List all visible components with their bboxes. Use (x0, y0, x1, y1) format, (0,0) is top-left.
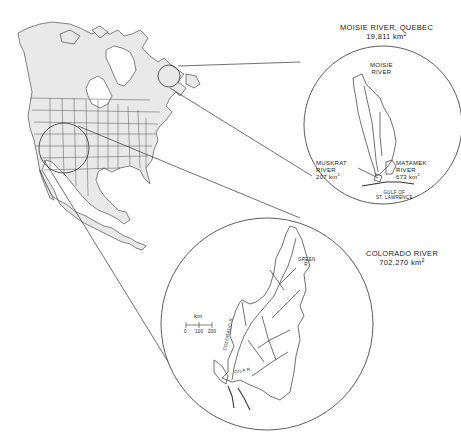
colorado-title-block: COLORADO RIVER 702,270 km2 (366, 250, 438, 267)
colorado-area: 702,270 km2 (366, 259, 438, 268)
green-river-label: GREEN R. (298, 257, 316, 267)
scale-tick-200: 200 (208, 329, 216, 334)
muskrat-river-label: MUSKRAT RIVER 207 km2 (316, 160, 347, 181)
moisie-title-block: MOISIE RIVER, QUEBEC 19,811 km2 (340, 24, 433, 41)
scale-unit: km (194, 313, 203, 320)
matamek-river-label: MATAMEK RIVER 673 km2 (396, 160, 427, 181)
north-america-map (18, 22, 200, 250)
scale-tick-0: 0 (184, 329, 187, 334)
colorado-inset-circle (161, 218, 373, 430)
moisie-river-label: MOISIE RIVER (370, 62, 393, 76)
gulf-label: GULF OF ST. LAWRENCE (376, 190, 413, 200)
scale-tick-100: 100 (195, 329, 203, 334)
moisie-area: 19,811 km2 (340, 33, 433, 42)
